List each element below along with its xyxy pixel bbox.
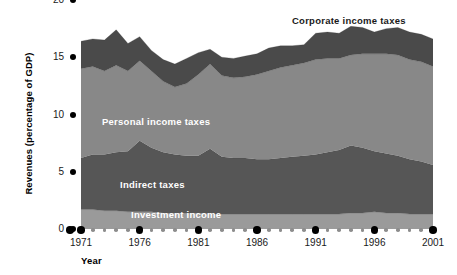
x-tick-label: 1991 [305,237,327,248]
y-tick-label: 0 [58,223,64,235]
x-tick-dot-major-icon [371,226,379,234]
y-tick-15: 15 [42,51,76,63]
y-tick-20: 20 [42,0,76,6]
y-tick-dot-icon [70,54,76,60]
y-tick-dot-icon [70,112,76,118]
x-tick-dot-minor-icon [408,228,412,232]
x-tick-dot-minor-icon [150,228,154,232]
y-tick-label: 5 [58,166,64,178]
x-tick-dot-minor-icon [337,228,341,232]
chart-figure: Revenues (percentage of GDP) 05101520 Co… [0,0,457,275]
x-tick-dot-major-icon [77,226,85,234]
stacked-area-plot [81,0,433,229]
x-tick-dot-minor-icon [396,228,400,232]
x-tick-label: 1971 [70,237,92,248]
y-tick-label: 15 [53,51,64,63]
x-tick-dot-minor-icon [326,228,330,232]
x-tick-dot-minor-icon [91,228,95,232]
axis-origin-dot-icon [66,226,74,234]
x-tick-dot-minor-icon [384,228,388,232]
x-tick-label: 1976 [129,237,151,248]
band-label-investment-income: Investment income [131,209,221,220]
x-tick-dot-minor-icon [103,228,107,232]
x-tick-dot-minor-icon [220,228,224,232]
x-axis-title: Year [81,255,102,266]
x-tick-dot-minor-icon [126,228,130,232]
y-tick-10: 10 [42,109,76,121]
y-tick-dot-icon [70,169,76,175]
y-tick-5: 5 [42,166,76,178]
x-tick-dot-major-icon [195,226,203,234]
x-tick-dot-minor-icon [349,228,353,232]
x-tick-dot-major-icon [253,226,261,234]
x-tick-dot-minor-icon [208,228,212,232]
x-tick-dot-minor-icon [361,228,365,232]
x-tick-label: 2001 [422,237,444,248]
x-tick-dot-minor-icon [232,228,236,232]
x-tick-dot-minor-icon [279,228,283,232]
y-tick-label: 10 [53,109,64,121]
x-tick-label: 1996 [363,237,385,248]
x-tick-dot-minor-icon [114,228,118,232]
x-tick-dot-major-icon [312,226,320,234]
band-label-personal-income-taxes: Personal income taxes [102,116,210,127]
y-tick-label: 20 [53,0,64,6]
x-tick-dot-minor-icon [267,228,271,232]
x-tick-dot-major-icon [136,226,144,234]
x-tick-dot-minor-icon [185,228,189,232]
band-label-corporate-income-taxes: Corporate income taxes [292,15,406,26]
x-tick-dot-minor-icon [290,228,294,232]
x-tick-dot-minor-icon [243,228,247,232]
x-tick-dot-minor-icon [161,228,165,232]
x-tick-dot-minor-icon [419,228,423,232]
x-tick-dot-minor-icon [302,228,306,232]
x-tick-dot-minor-icon [173,228,177,232]
x-tick-label: 1981 [187,237,209,248]
y-axis-title: Revenues (percentage of GDP) [23,24,34,224]
x-tick-dot-major-icon [429,226,437,234]
x-tick-label: 1986 [246,237,268,248]
band-label-indirect-taxes: Indirect taxes [120,179,185,190]
y-tick-dot-icon [70,0,76,3]
